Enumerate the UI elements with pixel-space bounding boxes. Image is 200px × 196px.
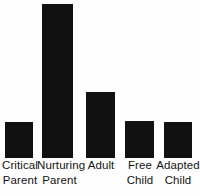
bar-label-nurturing-parent: Nurturing Parent bbox=[37, 158, 82, 188]
category-labels: Critical Parent Nurturing Parent Adult F… bbox=[0, 158, 200, 196]
bar-nurturing-parent bbox=[42, 4, 73, 158]
plot-area bbox=[0, 0, 200, 158]
bar-label-critical-parent: Critical Parent bbox=[0, 158, 40, 188]
bar-adapted-child bbox=[164, 122, 192, 158]
bar-adult bbox=[86, 92, 115, 158]
bar-chart: Critical Parent Nurturing Parent Adult F… bbox=[0, 0, 200, 196]
bar-free-child bbox=[125, 121, 154, 158]
bar-label-adapted-child: Adapted Child bbox=[156, 158, 200, 188]
bar-critical-parent bbox=[5, 122, 33, 158]
bar-label-adult: Adult bbox=[82, 158, 120, 173]
bar-label-free-child: Free Child bbox=[121, 158, 159, 188]
